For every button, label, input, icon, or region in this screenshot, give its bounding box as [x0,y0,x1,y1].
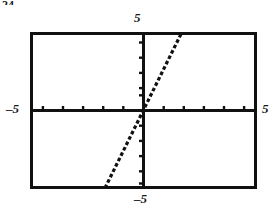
crop-artifact-label: 24. [2,0,18,5]
graph-figure: 24. [0,0,275,216]
plot-frame [30,32,257,189]
axis-label-left: –5 [6,102,19,116]
axis-label-bottom: –5 [134,192,147,206]
axis-label-right: 5 [262,102,275,116]
axis-label-top: 5 [134,11,141,25]
